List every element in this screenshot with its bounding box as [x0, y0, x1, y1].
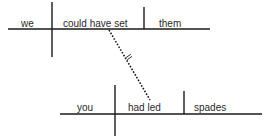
main-object: them	[159, 18, 181, 29]
sentence-diagram: we could have set them you had led spade…	[0, 0, 272, 136]
main-clause: we could have set them	[8, 2, 210, 57]
subordinate-clause: you had led spades	[60, 85, 262, 136]
equals-symbol-icon	[126, 54, 132, 59]
sub-object: spades	[194, 102, 226, 113]
sub-subject: you	[77, 102, 93, 113]
sub-verb: had led	[128, 102, 161, 113]
main-subject: we	[20, 18, 34, 29]
main-verb: could have set	[63, 18, 128, 29]
